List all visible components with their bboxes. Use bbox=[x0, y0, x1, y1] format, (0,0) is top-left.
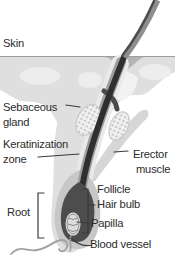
label-sebaceous-gland-line1: Sebaceous bbox=[3, 101, 58, 113]
label-root: Root bbox=[7, 206, 31, 218]
label-erector-muscle-line2: muscle bbox=[136, 163, 170, 175]
label-erector-muscle-line1: Erector bbox=[133, 148, 168, 160]
dermis-texture-patch bbox=[78, 72, 102, 88]
label-skin: Skin bbox=[3, 37, 24, 49]
hair-follicle-figure: Skin Sebaceous gland Keratinization zone… bbox=[0, 0, 175, 258]
label-keratinization-zone-line1: Keratinization bbox=[3, 138, 68, 150]
dermis-texture-patch bbox=[20, 67, 60, 85]
label-hair-bulb: Hair bulb bbox=[97, 198, 140, 210]
dermis-texture-patch bbox=[139, 64, 171, 80]
label-blood-vessel: Blood vessel bbox=[90, 238, 151, 250]
label-sebaceous-gland-line2: gland bbox=[3, 116, 29, 128]
label-keratinization-zone-line2: zone bbox=[3, 153, 26, 165]
hair-follicle-diagram: Skin Sebaceous gland Keratinization zone… bbox=[0, 0, 175, 258]
label-follicle: Follicle bbox=[97, 183, 130, 195]
papilla-shape bbox=[66, 213, 81, 236]
label-papilla: Papilla bbox=[91, 217, 124, 229]
